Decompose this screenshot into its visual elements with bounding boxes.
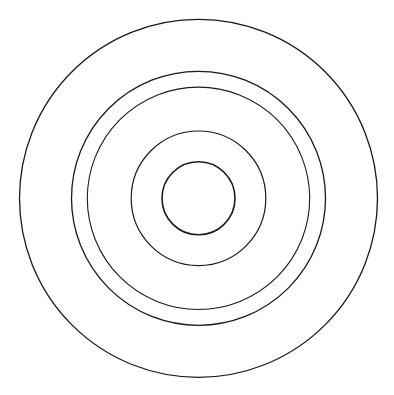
circle-ring-1-outer (20, 19, 378, 377)
diagram-canvas (0, 0, 394, 395)
circle-ring-2 (72, 71, 326, 325)
circle-ring-4 (131, 131, 266, 266)
concentric-circles-diagram (0, 0, 394, 395)
circle-ring-3 (87, 87, 309, 309)
circle-ring-5-inner (162, 162, 235, 235)
